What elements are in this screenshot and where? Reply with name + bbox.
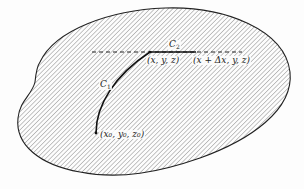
mid-point — [149, 51, 151, 53]
hatched-region — [18, 8, 290, 175]
diagram-svg — [0, 0, 304, 189]
end-point-label: (x + Δx, y, z) — [192, 56, 251, 65]
mid-point-label: (x, y, z) — [146, 56, 180, 65]
c1-subscript: 1 — [107, 83, 111, 90]
c2-subscript: 2 — [176, 43, 180, 50]
start-point-label: (x₀, y₀, z₀) — [99, 130, 145, 139]
diagram-canvas: C2 C1 (x, y, z) (x + Δx, y, z) (x₀, y₀, … — [0, 0, 304, 189]
c2-label: C2 — [168, 40, 181, 50]
c1-label: C1 — [99, 80, 112, 90]
c1-letter: C — [100, 79, 107, 89]
c2-letter: C — [169, 39, 176, 49]
start-point — [95, 132, 98, 135]
